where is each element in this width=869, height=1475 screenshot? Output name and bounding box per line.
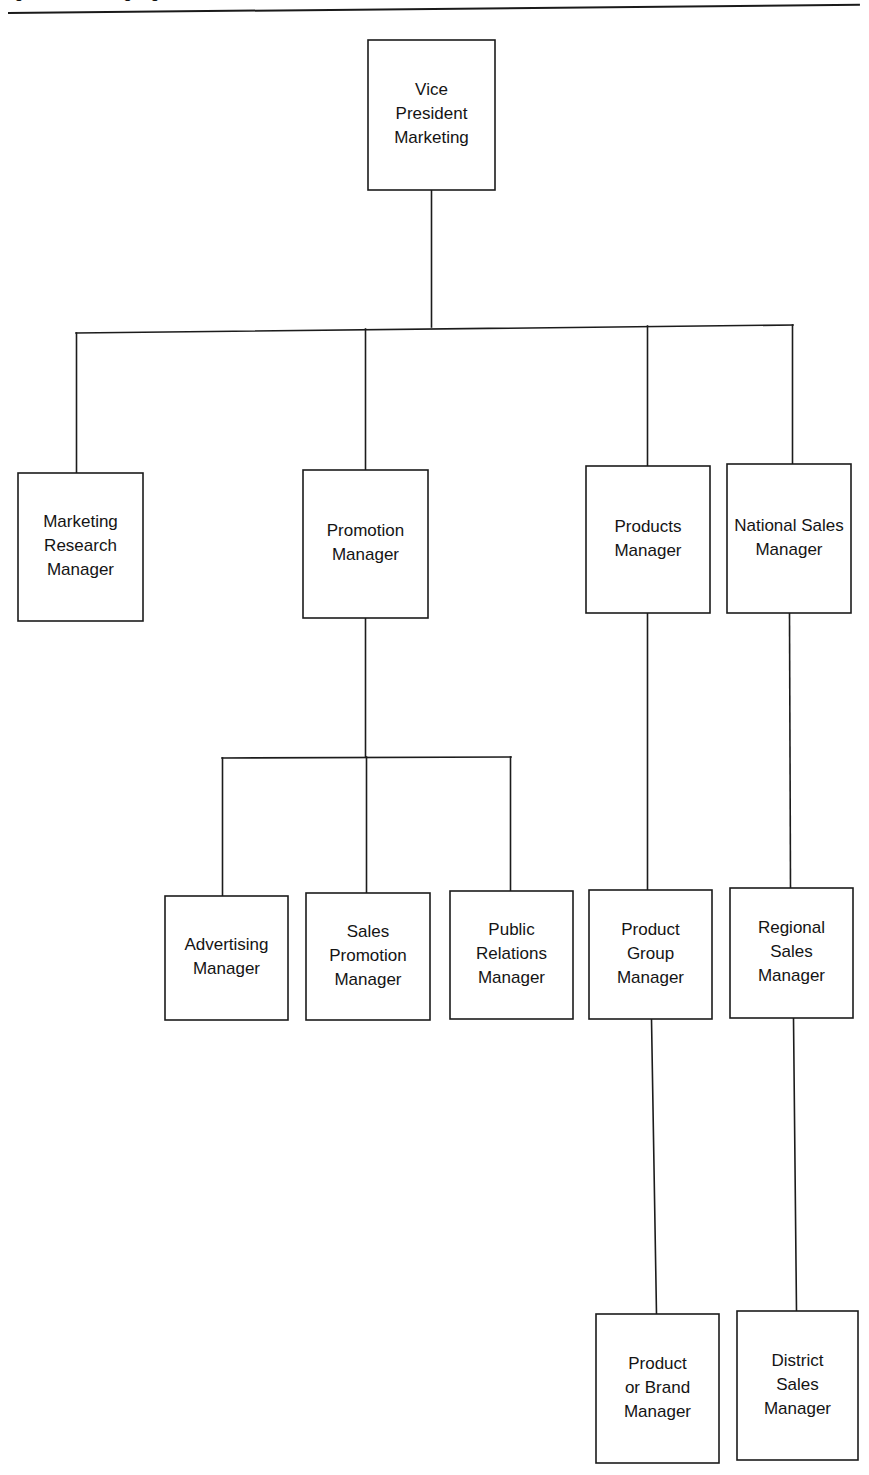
org-node-label-line: Group: [627, 944, 674, 963]
org-node-label-line: Manager: [332, 545, 399, 564]
org-node-regional-sales-manager[interactable]: RegionalSalesManager: [730, 888, 853, 1018]
org-node-label-line: Manager: [755, 540, 822, 559]
connector-regional-to-district: [794, 1018, 797, 1311]
org-node-label-line: Public: [488, 920, 535, 939]
org-node-label-line: or Brand: [625, 1378, 690, 1397]
connector-national-to-regional: [790, 613, 791, 888]
org-node-box: [165, 896, 288, 1020]
org-node-label-line: Manager: [334, 970, 401, 989]
org-chart-figure: Figure A marketing organization: [0, 0, 869, 1475]
connector-level2-bus: [76, 325, 793, 333]
org-node-public-relations-manager[interactable]: PublicRelationsManager: [450, 891, 573, 1019]
org-node-label-line: Product: [628, 1354, 687, 1373]
org-node-box: [303, 470, 428, 618]
org-node-national-sales-manager[interactable]: National SalesManager: [727, 464, 851, 613]
org-node-label-line: Manager: [758, 966, 825, 985]
org-chart-canvas: VicePresidentMarketingMarketingResearchM…: [0, 0, 869, 1475]
org-node-label-line: Sales: [347, 922, 390, 941]
org-node-label-line: Relations: [476, 944, 547, 963]
org-node-box: [586, 466, 710, 613]
org-node-label-line: Manager: [478, 968, 545, 987]
org-node-label-line: Manager: [764, 1399, 831, 1418]
connector-product-group-to-brand: [652, 1019, 657, 1314]
org-node-product-or-brand-manager[interactable]: Productor BrandManager: [596, 1314, 719, 1463]
org-node-label-line: Promotion: [329, 946, 406, 965]
org-node-label-line: President: [396, 104, 468, 123]
connector-layer: [76, 190, 797, 1314]
org-node-label-line: Regional: [758, 918, 825, 937]
org-node-sales-promotion-manager[interactable]: SalesPromotionManager: [306, 893, 430, 1020]
org-node-promotion-manager[interactable]: PromotionManager: [303, 470, 428, 618]
org-node-label-line: Sales: [770, 942, 813, 961]
org-node-marketing-research-manager[interactable]: MarketingResearchManager: [18, 473, 143, 621]
org-node-label-line: Research: [44, 536, 117, 555]
org-node-products-manager[interactable]: ProductsManager: [586, 466, 710, 613]
org-node-product-group-manager[interactable]: ProductGroupManager: [589, 890, 712, 1019]
org-node-label-line: Advertising: [184, 935, 268, 954]
org-node-box: [727, 464, 851, 613]
org-node-advertising-manager[interactable]: AdvertisingManager: [165, 896, 288, 1020]
org-node-label-line: Products: [614, 517, 681, 536]
org-node-label-line: Product: [621, 920, 680, 939]
node-layer: VicePresidentMarketingMarketingResearchM…: [18, 40, 858, 1463]
org-node-label-line: District: [772, 1351, 824, 1370]
org-node-label-line: Manager: [47, 560, 114, 579]
org-node-label-line: Manager: [617, 968, 684, 987]
org-node-label-line: Manager: [193, 959, 260, 978]
org-node-label-line: Marketing: [43, 512, 118, 531]
org-node-vice-president-marketing[interactable]: VicePresidentMarketing: [368, 40, 495, 190]
org-node-label-line: Marketing: [394, 128, 469, 147]
org-node-district-sales-manager[interactable]: DistrictSalesManager: [737, 1311, 858, 1460]
org-node-label-line: Manager: [614, 541, 681, 560]
org-node-label-line: Sales: [776, 1375, 819, 1394]
org-node-label-line: Manager: [624, 1402, 691, 1421]
org-node-label-line: Vice: [415, 80, 448, 99]
org-node-label-line: National Sales: [734, 516, 844, 535]
org-node-label-line: Promotion: [327, 521, 404, 540]
